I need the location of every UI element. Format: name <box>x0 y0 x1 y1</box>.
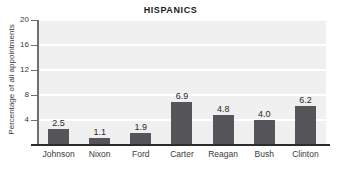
y-tick-label: 4 <box>1 116 29 124</box>
x-tick-label: Carter <box>161 149 202 159</box>
y-tick-label: 20 <box>1 16 29 24</box>
x-tick-label: Nixon <box>79 149 120 159</box>
x-tick-label: Bush <box>244 149 285 159</box>
y-tick-mark <box>31 45 37 47</box>
x-tick-label: Clinton <box>285 149 326 159</box>
bar-value-label: 2.5 <box>52 118 65 128</box>
bar-chart: HISPANICS Percentage of all appointments… <box>0 0 341 171</box>
y-axis-title: Percentage of all appointments <box>7 15 16 145</box>
bar-carter[interactable] <box>171 102 192 145</box>
y-tick-mark <box>31 95 37 97</box>
bar-column[interactable]: 2.5 <box>38 20 79 145</box>
x-tick-label: Ford <box>120 149 161 159</box>
bar-column[interactable]: 1.1 <box>79 20 120 145</box>
bar-column[interactable]: 4.8 <box>203 20 244 145</box>
y-tick-mark <box>31 20 37 22</box>
y-tick-mark <box>31 70 37 72</box>
bar-bush[interactable] <box>254 120 275 145</box>
bar-value-label: 6.9 <box>176 91 189 101</box>
bar-value-label: 4.0 <box>258 109 271 119</box>
x-tick-label: Reagan <box>203 149 244 159</box>
y-tick-mark <box>31 120 37 122</box>
y-axis-line <box>37 20 39 146</box>
y-tick-label: 16 <box>1 41 29 49</box>
bar-reagan[interactable] <box>213 115 234 145</box>
y-tick-label: 12 <box>1 66 29 74</box>
bar-column[interactable]: 6.2 <box>285 20 326 145</box>
x-tick-label: Johnson <box>38 149 79 159</box>
y-tick-label: 8 <box>1 91 29 99</box>
chart-title: HISPANICS <box>0 5 341 16</box>
bar-clinton[interactable] <box>295 106 316 145</box>
bar-value-label: 6.2 <box>299 95 312 105</box>
bar-column[interactable]: 1.9 <box>120 20 161 145</box>
bar-value-label: 1.1 <box>93 127 106 137</box>
bar-column[interactable]: 4.0 <box>244 20 285 145</box>
bar-johnson[interactable] <box>48 129 69 145</box>
x-axis-line <box>31 144 330 146</box>
bar-column[interactable]: 6.9 <box>161 20 202 145</box>
bar-value-label: 1.9 <box>135 122 148 132</box>
bar-value-label: 4.8 <box>217 104 230 114</box>
plot-frame: 2.51.11.96.94.84.06.2 <box>38 20 326 145</box>
